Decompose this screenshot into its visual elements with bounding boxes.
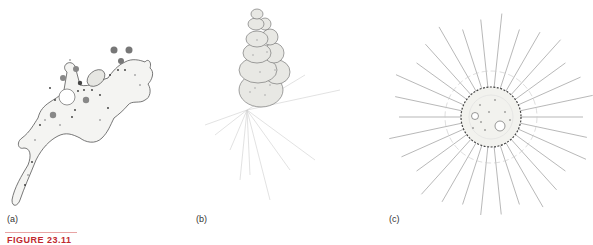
figure-caption: FIGURE 23.11 xyxy=(7,235,72,245)
caption-rule xyxy=(5,232,77,233)
panel-label-a: (a) xyxy=(7,214,18,224)
panel-b: (b) xyxy=(195,0,385,215)
panel-c: (c) xyxy=(385,0,593,215)
panel-a: (a) xyxy=(0,0,195,215)
radiolarian-illustration xyxy=(385,0,593,215)
panel-label-c: (c) xyxy=(389,214,400,224)
amoeba-illustration xyxy=(0,0,195,215)
foraminiferan-illustration xyxy=(195,0,385,215)
panel-label-b: (b) xyxy=(196,214,207,224)
